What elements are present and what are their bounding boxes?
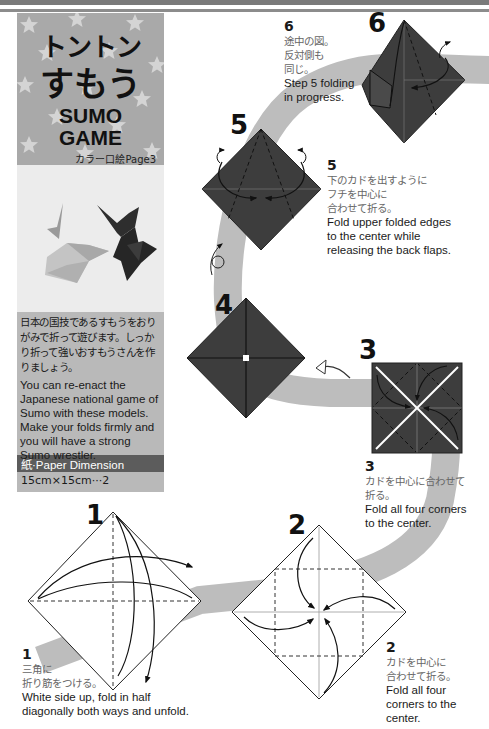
- step3-caption-number: 3: [365, 459, 489, 474]
- step2-caption-en: Fold all four corners to the center.: [386, 683, 486, 725]
- step5-caption-number: 5: [327, 158, 487, 173]
- step5-number: 5: [230, 110, 248, 140]
- step5-caption: 5 下のカドを出すように フチを中心に 合わせて折る。 Fold upper f…: [327, 158, 487, 257]
- step4-diagram: [187, 298, 305, 418]
- step3-number: 3: [359, 335, 377, 365]
- step3-caption-jp: カドを中心に合わせて 折る。: [365, 474, 489, 502]
- step1-number: 1: [86, 500, 104, 530]
- step2-caption-number: 2: [386, 640, 486, 655]
- step1-caption-en: White side up, fold in half diagonally b…: [22, 690, 222, 718]
- step5-caption-jp: 下のカドを出すように フチを中心に 合わせて折る。: [327, 173, 487, 215]
- step6-diagram: [362, 20, 465, 143]
- step1-caption-jp: 三角に 折り筋をつける。: [22, 662, 222, 690]
- step2-number: 2: [288, 510, 306, 540]
- step2-diagram: [232, 525, 406, 699]
- step5-caption-en: Fold upper folded edges to the center wh…: [327, 215, 487, 257]
- step3-diagram: [372, 363, 462, 453]
- step6-caption-jp: 途中の図。 反対側も 同じ。: [284, 34, 374, 76]
- step6-caption: 6 途中の図。 反対側も 同じ。 Step 5 folding in progr…: [284, 19, 374, 104]
- step2-caption-jp: カドを中心に 合わせて折る。: [386, 655, 486, 683]
- step6-caption-number: 6: [284, 19, 374, 34]
- step1-caption-number: 1: [22, 647, 222, 662]
- step6-caption-en: Step 5 folding in progress.: [284, 76, 374, 104]
- step1-caption: 1 三角に 折り筋をつける。 White side up, fold in ha…: [22, 647, 222, 718]
- step4-number: 4: [215, 290, 233, 320]
- flip-over-icon: [211, 244, 224, 275]
- step5-diagram: [202, 129, 321, 250]
- step3-caption-en: Fold all four corners to the center.: [365, 502, 489, 530]
- step2-caption: 2 カドを中心に 合わせて折る。 Fold all four corners t…: [386, 640, 486, 725]
- step3-caption: 3 カドを中心に合わせて 折る。 Fold all four corners t…: [365, 459, 489, 530]
